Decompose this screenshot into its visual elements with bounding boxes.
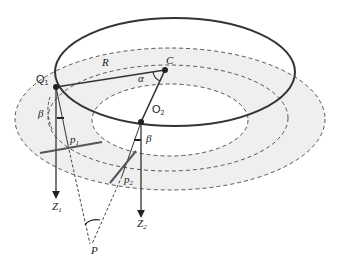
label-R: R	[101, 56, 109, 68]
label-Z2: Z2	[137, 217, 147, 231]
angle-arc-P	[85, 220, 100, 225]
label-beta-right: β	[145, 132, 152, 144]
dashed-line-p2-P	[92, 176, 122, 244]
point-Q1	[53, 84, 59, 90]
label-P: P	[90, 244, 98, 256]
label-C: C	[166, 54, 174, 66]
label-Q1: Q1	[36, 73, 49, 86]
point-C	[162, 67, 168, 73]
label-Z1: Z1	[52, 200, 62, 214]
label-beta-left: β	[37, 107, 44, 119]
label-alpha: α	[138, 72, 144, 84]
label-O2: O2	[152, 103, 165, 116]
ring-geometry-diagram: Q1 R C α O2 β β p1 p2 Z1 Z2 P	[0, 0, 340, 267]
point-O2	[138, 119, 144, 125]
